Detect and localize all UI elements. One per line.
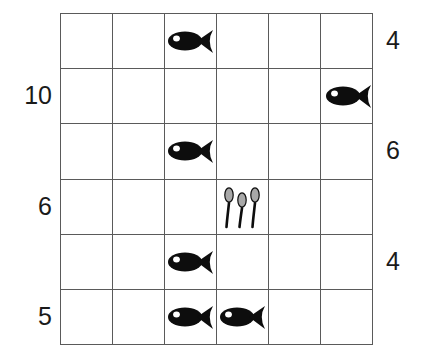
row-label-right-row1: 4 [386, 28, 400, 53]
grid-cell-r2-c5[interactable] [269, 69, 321, 124]
grid-cell-r2-c4[interactable] [217, 69, 269, 124]
grid-cell-r6-c1[interactable] [61, 290, 113, 345]
grid-cell-r1-c3[interactable] [165, 14, 217, 69]
grid-cell-r3-c4[interactable] [217, 124, 269, 179]
row-label-right-row5: 4 [386, 249, 400, 274]
grid-cell-r3-c1[interactable] [61, 124, 113, 179]
row-label-left-row2: 10 [24, 83, 52, 108]
grid-cell-r6-c6[interactable] [321, 290, 373, 345]
fish-icon [326, 83, 372, 109]
grid-cell-r6-c5[interactable] [269, 290, 321, 345]
grid-cell-r3-c3[interactable] [165, 124, 217, 179]
fish-icon [168, 304, 214, 330]
grid-cell-r3-c5[interactable] [269, 124, 321, 179]
worksheet-canvas: 1065 464 [0, 0, 424, 364]
fish-icon [220, 304, 266, 330]
grid-cell-r4-c6[interactable] [321, 180, 373, 235]
grid-cell-r4-c2[interactable] [113, 180, 165, 235]
grid-cell-r1-c5[interactable] [269, 14, 321, 69]
grid-cell-r6-c2[interactable] [113, 290, 165, 345]
spoons-icon [218, 182, 268, 232]
grid [60, 13, 373, 345]
row-label-left-row4: 6 [38, 194, 52, 219]
grid-cell-r4-c3[interactable] [165, 180, 217, 235]
fish-icon [168, 28, 214, 54]
grid-cell-r5-c5[interactable] [269, 235, 321, 290]
grid-cell-r1-c2[interactable] [113, 14, 165, 69]
grid-cell-r6-c3[interactable] [165, 290, 217, 345]
fish-icon [168, 138, 214, 164]
row-label-right-row3: 6 [386, 138, 400, 163]
grid-cell-r2-c2[interactable] [113, 69, 165, 124]
grid-cell-r3-c6[interactable] [321, 124, 373, 179]
grid-cell-r5-c4[interactable] [217, 235, 269, 290]
grid-cell-r1-c6[interactable] [321, 14, 373, 69]
grid-cell-r4-c4[interactable] [217, 180, 269, 235]
grid-cell-r2-c3[interactable] [165, 69, 217, 124]
grid-cell-r5-c1[interactable] [61, 235, 113, 290]
grid-cell-r1-c4[interactable] [217, 14, 269, 69]
grid-cell-r5-c2[interactable] [113, 235, 165, 290]
grid-cell-r4-c5[interactable] [269, 180, 321, 235]
fish-icon [168, 249, 214, 275]
grid-cell-r2-c1[interactable] [61, 69, 113, 124]
grid-cell-r4-c1[interactable] [61, 180, 113, 235]
grid-cell-r3-c2[interactable] [113, 124, 165, 179]
grid-cell-r5-c6[interactable] [321, 235, 373, 290]
grid-cell-r6-c4[interactable] [217, 290, 269, 345]
grid-cell-r2-c6[interactable] [321, 69, 373, 124]
row-label-left-row6: 5 [38, 304, 52, 329]
grid-cell-r1-c1[interactable] [61, 14, 113, 69]
grid-cell-r5-c3[interactable] [165, 235, 217, 290]
